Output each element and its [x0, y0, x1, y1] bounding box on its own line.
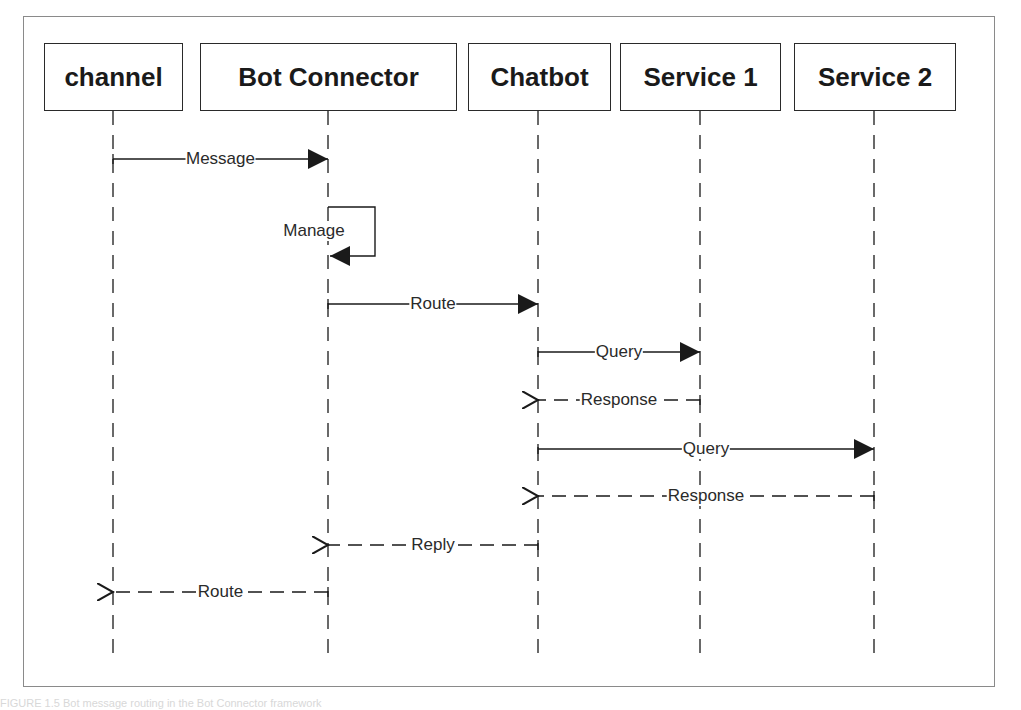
figure-caption: FIGURE 1.5 Bot message routing in the Bo… [0, 697, 322, 709]
message-label: Route [409, 294, 456, 314]
sequence-diagram [0, 0, 1021, 710]
message-label: Message [185, 149, 256, 169]
message-label: Query [595, 342, 643, 362]
message-label: Route [197, 582, 244, 602]
message-label: Manage [282, 221, 345, 241]
message-label: Response [667, 486, 746, 506]
lifelines [113, 111, 874, 658]
message-label: Response [580, 390, 659, 410]
message-label: Query [682, 439, 730, 459]
message-label: Reply [410, 535, 455, 555]
messages [113, 154, 874, 597]
